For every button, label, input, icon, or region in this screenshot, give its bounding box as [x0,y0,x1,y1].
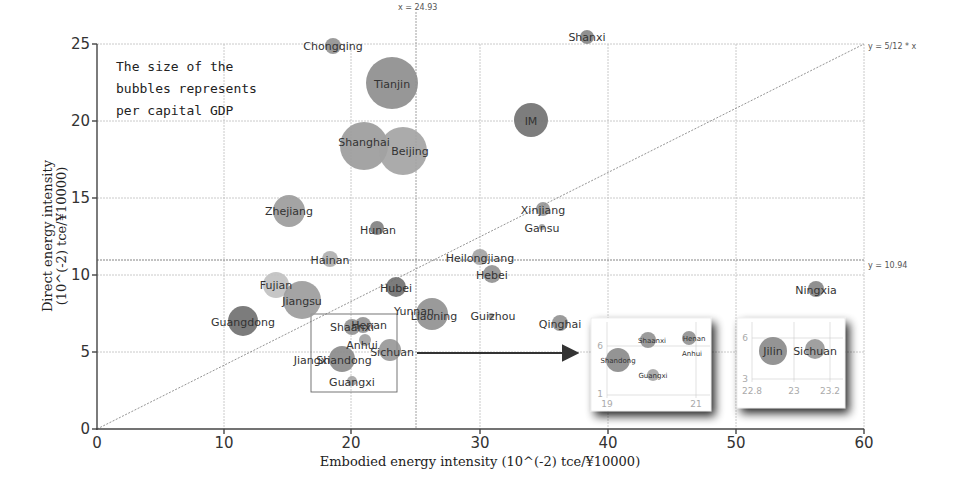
svg-text:Shaanxi: Shaanxi [638,337,666,345]
svg-text:23: 23 [788,386,799,396]
x-tick-labels: 0 10 20 30 40 50 60 [92,434,873,452]
svg-text:40: 40 [598,434,617,452]
svg-text:10: 10 [71,266,90,284]
inset-right: Jilin Sichuan 6 3 22.8 23 23.2 [737,318,845,408]
svg-text:Guangdong: Guangdong [211,316,275,329]
svg-text:Zhejiang: Zhejiang [265,205,313,218]
svg-text:Xinjiang: Xinjiang [521,204,565,217]
svg-text:Beijing: Beijing [391,145,428,158]
svg-text:Shanghai: Shanghai [338,136,389,149]
svg-text:The size of the: The size of the [116,59,234,74]
svg-text:Hebei: Hebei [476,269,508,282]
svg-text:Henan: Henan [683,335,706,343]
svg-text:6: 6 [597,341,603,351]
svg-text:Jiangsu: Jiangsu [281,295,322,308]
svg-text:6: 6 [742,333,748,343]
svg-text:Shandong: Shandong [316,354,371,367]
diagonal-line-label: y = 5/12 * x [868,42,917,51]
svg-text:Guangxi: Guangxi [638,372,667,380]
svg-text:0: 0 [92,434,102,452]
horizontal-line-label: y = 10.94 [868,261,907,270]
vertical-line-label: x = 24.93 [398,3,437,12]
svg-text:Jilin: Jilin [762,345,782,358]
svg-text:Hainan: Hainan [311,254,350,267]
svg-text:Qinghai: Qinghai [539,318,581,331]
svg-text:Fujian: Fujian [260,279,293,292]
svg-text:Hunan: Hunan [360,224,396,237]
svg-text:IM: IM [525,115,538,128]
svg-text:per capital GDP: per capital GDP [116,103,234,118]
x-axis-title: Embodied energy intensity (10^(-2) tce/¥… [320,454,640,469]
y-tick-labels: 25 20 15 10 5 0 [71,35,90,438]
svg-text:Guangxi: Guangxi [329,376,375,389]
svg-text:30: 30 [470,434,489,452]
svg-text:Henan: Henan [351,319,387,332]
svg-text:Gansu: Gansu [525,222,560,235]
svg-text:bubbles represents: bubbles represents [116,81,257,96]
bubble-chart: x = 24.93 y = 10.94 y = 5/12 * x 25 20 1… [0,0,959,493]
svg-text:19: 19 [601,399,613,409]
svg-text:22.8: 22.8 [742,386,762,396]
svg-text:20: 20 [341,434,360,452]
svg-text:60: 60 [854,434,873,452]
svg-text:3: 3 [742,374,748,384]
svg-text:Guizhou: Guizhou [471,310,516,323]
svg-text:25: 25 [71,35,90,53]
svg-text:Tianjin: Tianjin [373,78,410,91]
svg-text:Ningxia: Ningxia [795,284,837,297]
svg-text:Anhui: Anhui [682,350,702,358]
svg-text:Shandong: Shandong [600,357,635,365]
svg-text:Sichuan: Sichuan [793,345,837,358]
y-axis-title: Direct energy intensity (10^(-2) tce/¥10… [40,159,69,312]
svg-text:21: 21 [690,399,701,409]
svg-text:(10^(-2) tce/¥10000): (10^(-2) tce/¥10000) [54,167,69,306]
svg-text:5: 5 [80,343,90,361]
svg-text:0: 0 [80,420,90,438]
svg-text:Sichuan: Sichuan [370,346,414,359]
svg-text:23.2: 23.2 [820,386,840,396]
svg-text:Shanxi: Shanxi [568,31,605,44]
svg-text:Hubei: Hubei [380,282,412,295]
svg-text:Heilongjiang: Heilongjiang [446,252,515,265]
svg-text:15: 15 [71,189,90,207]
svg-text:Chongqing: Chongqing [303,40,362,53]
svg-text:1: 1 [597,389,603,399]
svg-text:20: 20 [71,112,90,130]
inset-left: Shaanxi Henan Anhui Shandong Guangxi 6 1… [591,318,711,411]
svg-text:Yunnan: Yunnan [393,305,434,318]
bubble-size-note: The size of the bubbles represents per c… [116,59,257,118]
svg-text:50: 50 [726,434,745,452]
svg-text:10: 10 [214,434,233,452]
svg-text:Direct energy intensity: Direct energy intensity [40,159,55,312]
